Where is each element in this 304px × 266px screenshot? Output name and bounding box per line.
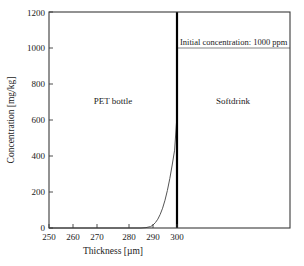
y-tick-label-400: 400 — [32, 151, 46, 161]
y-tick-label-600: 600 — [32, 115, 46, 125]
concentration-profile-chart: 0 200 400 600 800 1000 1200 250 260 270 … — [0, 0, 304, 266]
x-tick-label-280: 280 — [122, 232, 136, 242]
pet-bottle-region-label: PET bottle — [94, 96, 133, 106]
initial-concentration-label: Initial concentration: 1000 ppm — [180, 37, 288, 47]
x-tick-label-250: 250 — [42, 232, 56, 242]
chart-figure: 0 200 400 600 800 1000 1200 250 260 270 … — [0, 0, 304, 266]
x-axis-title: Thickness [µm] — [83, 246, 143, 256]
x-tick-label-300: 300 — [170, 232, 184, 242]
x-tick-label-260: 260 — [66, 232, 80, 242]
y-axis-title: Concentration [mg/kg] — [6, 77, 16, 164]
y-tick-label-800: 800 — [32, 79, 46, 89]
y-tick-label-200: 200 — [32, 187, 46, 197]
y-tick-label-1000: 1000 — [27, 43, 46, 53]
y-tick-label-1200: 1200 — [27, 8, 46, 18]
x-tick-label-290: 290 — [146, 232, 160, 242]
softdrink-region-label: Softdrink — [216, 96, 251, 106]
x-tick-label-270: 270 — [90, 232, 104, 242]
